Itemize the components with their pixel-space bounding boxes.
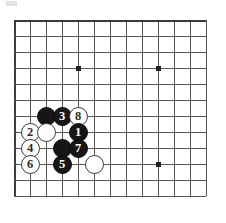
black-stone-5[interactable]: 5 bbox=[53, 155, 72, 174]
stone-label: 7 bbox=[70, 140, 87, 157]
stone-label: 3 bbox=[54, 108, 71, 125]
screenshot-root: 38214765 bbox=[0, 0, 226, 223]
stone-label: 1 bbox=[70, 124, 87, 141]
stone-label: 5 bbox=[54, 156, 71, 173]
board-grid bbox=[0, 0, 226, 223]
stone-label: 4 bbox=[22, 140, 39, 157]
white-stone-unnumbered-d[interactable] bbox=[85, 155, 104, 174]
stone-label: 8 bbox=[70, 108, 87, 125]
stone-label bbox=[54, 140, 71, 157]
stone-label: 2 bbox=[22, 124, 39, 141]
stone-label: 6 bbox=[22, 156, 39, 173]
stone-label bbox=[86, 156, 103, 173]
white-stone-6[interactable]: 6 bbox=[21, 155, 40, 174]
go-board[interactable]: 38214765 bbox=[0, 0, 226, 223]
stone-label bbox=[38, 108, 55, 125]
stone-label bbox=[38, 124, 55, 141]
